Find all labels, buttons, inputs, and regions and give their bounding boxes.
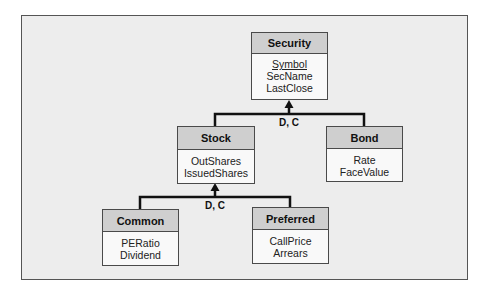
attribute: Dividend [103, 249, 178, 261]
entity-attributes: Symbol SecName LastClose [252, 54, 327, 94]
entity-title: Preferred [253, 208, 328, 230]
entity-stock[interactable]: Stock OutShares IssuedShares [177, 126, 255, 184]
entity-title: Common [103, 210, 178, 232]
attribute: LastClose [252, 82, 327, 94]
attribute: Arrears [253, 247, 328, 259]
entity-security[interactable]: Security Symbol SecName LastClose [251, 32, 328, 100]
generalization-label: D, C [279, 117, 299, 128]
attribute: Rate [327, 154, 402, 166]
attribute: CallPrice [253, 235, 328, 247]
entity-attributes: OutShares IssuedShares [178, 150, 254, 179]
attribute-key: Symbol [252, 58, 327, 70]
entity-bond[interactable]: Bond Rate FaceValue [326, 126, 403, 182]
entity-attributes: CallPrice Arrears [253, 230, 328, 259]
entity-attributes: Rate FaceValue [327, 149, 402, 178]
entity-title: Security [252, 33, 327, 54]
entity-title: Bond [327, 127, 402, 149]
entity-common[interactable]: Common PERatio Dividend [102, 209, 179, 266]
arrowhead-icon [285, 100, 294, 108]
entity-preferred[interactable]: Preferred CallPrice Arrears [252, 207, 329, 264]
attribute: SecName [252, 70, 327, 82]
attribute: OutShares [178, 155, 254, 167]
arrowhead-icon [211, 183, 220, 191]
entity-attributes: PERatio Dividend [103, 232, 178, 261]
entity-title: Stock [178, 127, 254, 150]
generalization-label: D, C [205, 200, 225, 211]
attribute: IssuedShares [178, 167, 254, 179]
attribute: PERatio [103, 237, 178, 249]
attribute: FaceValue [327, 166, 402, 178]
